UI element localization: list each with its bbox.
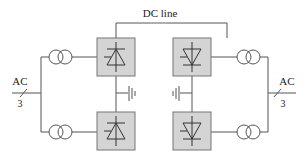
hvdc-diagram: DC line AC 3 AC 3 [0, 0, 306, 157]
transformer-icon [237, 125, 260, 139]
transformer-icon [49, 50, 72, 64]
right-ac-label: AC [279, 75, 294, 87]
right-phase-count: 3 [281, 98, 286, 109]
ground-icon [129, 86, 135, 101]
left-ac-label: AC [12, 75, 27, 87]
dc-line [116, 23, 227, 38]
ground-icon [173, 86, 179, 101]
transformer-icon [49, 125, 72, 139]
transformer-icon [237, 50, 260, 64]
dc-line-label: DC line [143, 7, 178, 19]
left-phase-count: 3 [18, 98, 23, 109]
